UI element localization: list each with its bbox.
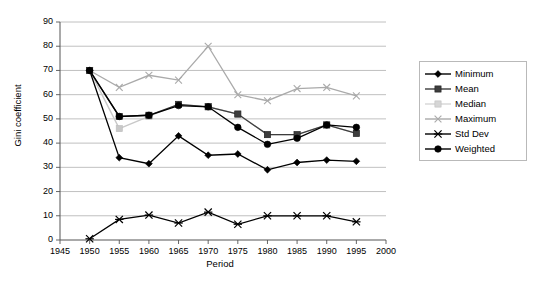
legend-item-std-dev: Std Dev bbox=[423, 126, 523, 141]
legend-label-std-dev: Std Dev bbox=[453, 129, 489, 139]
series-std-dev bbox=[85, 209, 360, 243]
y-axis-tick-label: 10 bbox=[27, 211, 53, 220]
legend-key-mean-icon bbox=[423, 82, 453, 96]
series-minimum bbox=[86, 67, 360, 173]
chart-plot-area: Gini coefficient Period 0102030405060708… bbox=[0, 0, 400, 281]
legend-label-maximum: Maximum bbox=[453, 114, 496, 124]
legend-item-minimum: Minimum bbox=[423, 66, 523, 81]
chart-screenshot: Gini coefficient Period 0102030405060708… bbox=[0, 0, 539, 281]
series-weighted bbox=[86, 67, 359, 147]
y-axis-tick-label: 50 bbox=[27, 114, 53, 123]
legend-key-median-icon bbox=[423, 97, 453, 111]
legend-label-minimum: Minimum bbox=[453, 69, 494, 79]
y-axis-tick-label: 70 bbox=[27, 65, 53, 74]
y-axis-tick-label: 0 bbox=[27, 235, 53, 244]
y-axis-title: Gini coefficient bbox=[12, 61, 23, 171]
chart-legend: Minimum Mean Median Maximum Std Dev Weig… bbox=[419, 61, 527, 161]
x-axis-tick-label: 2000 bbox=[369, 247, 403, 256]
legend-item-median: Median bbox=[423, 96, 523, 111]
y-axis-tick-label: 20 bbox=[27, 187, 53, 196]
y-axis-tick-label: 80 bbox=[27, 41, 53, 50]
legend-label-weighted: Weighted bbox=[453, 144, 495, 154]
legend-item-mean: Mean bbox=[423, 81, 523, 96]
y-axis-tick-label: 90 bbox=[27, 17, 53, 26]
legend-item-maximum: Maximum bbox=[423, 111, 523, 126]
x-axis-title: Period bbox=[60, 258, 380, 269]
legend-label-median: Median bbox=[453, 99, 486, 109]
legend-label-mean: Mean bbox=[453, 84, 479, 94]
legend-item-weighted: Weighted bbox=[423, 141, 523, 156]
legend-key-minimum-icon bbox=[423, 67, 453, 81]
legend-key-std-dev-icon bbox=[423, 127, 453, 141]
y-axis-tick-label: 60 bbox=[27, 90, 53, 99]
legend-key-weighted-icon bbox=[423, 142, 453, 156]
y-axis-tick-label: 40 bbox=[27, 138, 53, 147]
y-axis-tick-label: 30 bbox=[27, 162, 53, 171]
series-mean bbox=[87, 67, 360, 137]
chart-svg bbox=[0, 0, 400, 281]
legend-key-maximum-icon bbox=[423, 112, 453, 126]
